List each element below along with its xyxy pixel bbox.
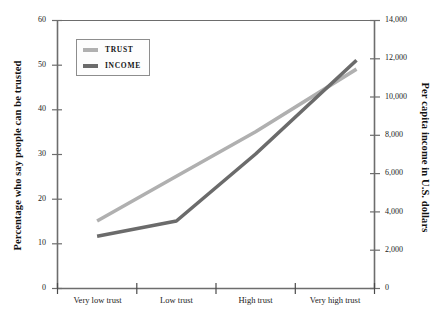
right-axis-title: Per capita income in U.S. dollars	[420, 33, 431, 283]
right-tick-0: 0	[385, 283, 389, 292]
left-tick-10: 10	[22, 238, 46, 247]
right-tick-2000: 2,000	[385, 245, 403, 254]
left-axis-title: Percentage who say people can be trusted	[12, 31, 23, 281]
left-tick-30: 30	[22, 149, 46, 158]
x-category-high-trust: High trust	[216, 295, 295, 305]
legend-label-income: INCOME	[105, 61, 141, 70]
right-tick-10000: 10,000	[385, 92, 407, 101]
legend-swatch-trust-icon	[83, 48, 98, 52]
x-category-very-high-trust: Very high trust	[295, 295, 375, 305]
left-tick-0: 0	[22, 283, 46, 292]
left-tick-40: 40	[22, 104, 46, 113]
legend-label-trust: TRUST	[105, 45, 134, 54]
legend-item-trust[interactable]: TRUST	[83, 44, 141, 55]
legend-swatch-income-icon	[83, 64, 98, 68]
right-tick-6000: 6,000	[385, 168, 403, 177]
series-line-trust	[97, 69, 356, 221]
x-category-very-low-trust: Very low trust	[58, 295, 137, 305]
right-tick-8000: 8,000	[385, 130, 403, 139]
left-tick-20: 20	[22, 194, 46, 203]
right-tick-12000: 12,000	[385, 53, 407, 62]
left-tick-50: 50	[22, 60, 46, 69]
right-tick-4000: 4,000	[385, 207, 403, 216]
left-tick-60: 60	[22, 15, 46, 24]
chart-legend: TRUST INCOME	[76, 39, 150, 76]
legend-item-income[interactable]: INCOME	[83, 60, 141, 71]
x-category-low-trust: Low trust	[137, 295, 216, 305]
plot-area	[0, 0, 432, 310]
right-tick-14000: 14,000	[385, 15, 407, 24]
chart-container: 60 50 40 30 20 10 0 14,000 12,000 10,000…	[0, 0, 432, 310]
